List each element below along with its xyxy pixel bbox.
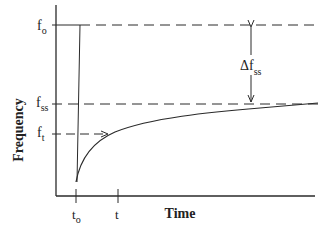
f0-label: fo [37,18,47,36]
fss-label: fss [36,95,49,113]
x-axis-title: Time [165,206,196,221]
frequency-time-diagram: fo fss ft Δfss to t Time Frequency [0,0,335,241]
y-axis-title: Frequency [11,98,26,162]
t-label: t [115,207,119,222]
t0-label: to [72,207,81,225]
ft-label: ft [37,125,45,143]
frequency-recovery-curve [76,103,318,182]
